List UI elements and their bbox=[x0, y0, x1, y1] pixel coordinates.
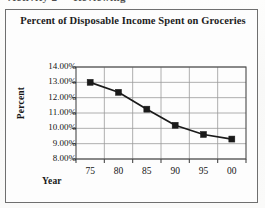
header-fragment-left: Activity 2 bbox=[8, 0, 58, 3]
x-tick-label: 75 bbox=[78, 166, 102, 176]
page-header-strip: Activity 2Reviewing bbox=[0, 0, 265, 7]
chart-figure-box: Percent of Disposable Income Spent on Gr… bbox=[5, 9, 258, 203]
x-axis-tick-labels: 758085909500 bbox=[6, 10, 259, 204]
x-tick-label: 90 bbox=[163, 166, 187, 176]
x-tick-label: 80 bbox=[107, 166, 131, 176]
y-axis-title: Percent bbox=[16, 75, 26, 131]
x-tick-label: 00 bbox=[220, 166, 244, 176]
x-axis-title: Year bbox=[42, 176, 62, 186]
x-tick-label: 95 bbox=[192, 166, 216, 176]
page-header-text: Activity 2Reviewing bbox=[8, 0, 126, 3]
x-tick-label: 85 bbox=[135, 166, 159, 176]
plot-area: 14.00%13.00%12.00%11.00%10.00%9.00%8.00%… bbox=[6, 10, 259, 204]
header-fragment-right: Reviewing bbox=[74, 0, 126, 3]
